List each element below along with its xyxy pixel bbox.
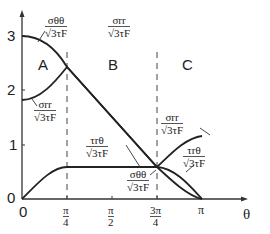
label-sigma-theta-theta-top: σθθ √3τF [45,14,67,39]
y-tick-3: 3 [7,29,15,43]
label-tau-right: τrθ √3τF [183,144,205,169]
label-sigma-rr-top: σrr √3τF [108,14,130,39]
x-axis-label-theta: θ [243,207,250,221]
label-sigma-rr-right: σrr √3τF [161,111,183,136]
x-tick-pi-2: π 2 [108,205,114,228]
label-sigma-rr-left: σrr √3τF [34,98,56,123]
region-a-label: A [38,58,48,72]
label-tau-mid: τrθ √3τF [86,134,108,159]
y-tick-0: 0 [7,191,15,205]
x-tick-pi: π [198,203,204,217]
x-tick-pi-4: π 4 [63,205,69,228]
x-tick-0: 0 [19,205,27,219]
x-tick-3pi-4: 3π 4 [150,205,161,228]
x-axis-arrow-icon [241,197,248,202]
region-c-label: C [182,58,193,72]
y-axis-arrow-icon [20,10,25,17]
y-tick-2: 2 [7,83,15,97]
label-sigma-theta-theta-bottom: σθθ √3τF [127,168,149,193]
region-b-label: B [108,58,118,72]
y-tick-1: 1 [9,138,17,152]
